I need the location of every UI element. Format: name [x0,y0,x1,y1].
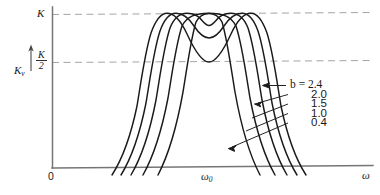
y-axis-label-arrow [28,45,33,72]
y-tick-label-K-over-2: K 2 [36,50,47,71]
y-axis-title: Kv [14,65,25,77]
x-axis-line [52,166,373,169]
curve-b-2.0 [121,13,297,175]
x-tick-label-origin: 0 [48,171,54,182]
curve-family [112,13,306,175]
x-tick-label-omega-zero: ω0 [201,171,213,183]
x-axis-title: ω [362,170,370,181]
k-over-2-denominator: 2 [36,60,47,71]
k-over-2-numerator: K [36,50,47,60]
leader-line-1.0 [246,114,288,132]
y-tick-label-K: K [37,8,44,19]
figure-canvas: Kv K K 2 0 ω0 ω b = 2.4 2.0 1.5 1.0 0.4 [0,0,380,195]
legend-item-b-0.4: 0.4 [311,117,327,129]
